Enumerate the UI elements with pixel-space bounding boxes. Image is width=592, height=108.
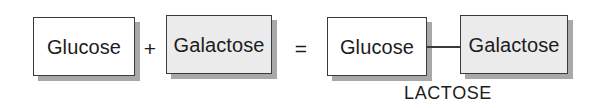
diagram-canvas: Glucose + Galactose = Glucose Galactose … bbox=[0, 0, 592, 108]
equals-operator-symbol: = bbox=[295, 37, 307, 60]
molecule-box-galactose-right[interactable]: Galactose bbox=[460, 15, 568, 74]
molecule-box-galactose-left[interactable]: Galactose bbox=[166, 15, 272, 74]
molecule-label-glucose-right: Glucose bbox=[340, 36, 414, 56]
molecule-box-glucose-left[interactable]: Glucose bbox=[33, 17, 135, 76]
molecule-label-galactose-left: Galactose bbox=[174, 34, 265, 54]
plus-operator-symbol: + bbox=[144, 37, 156, 60]
product-caption-lactose: LACTOSE bbox=[348, 84, 548, 102]
glycosidic-bond-line bbox=[426, 46, 461, 48]
molecule-label-galactose-right: Galactose bbox=[469, 34, 560, 54]
molecule-label-glucose-left: Glucose bbox=[47, 36, 121, 56]
molecule-box-glucose-right[interactable]: Glucose bbox=[327, 17, 427, 76]
plus-operator: + bbox=[141, 38, 159, 59]
equals-operator: = bbox=[292, 38, 310, 59]
product-caption-lactose-text: LACTOSE bbox=[404, 83, 492, 103]
